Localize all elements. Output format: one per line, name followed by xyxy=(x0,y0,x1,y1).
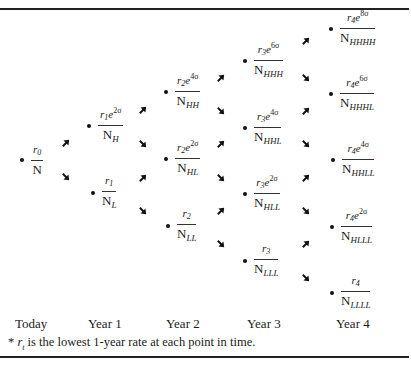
rate-fraction: r0N xyxy=(31,143,43,177)
node-dot xyxy=(243,126,247,130)
rate-fraction: r4e4σNHHLL xyxy=(342,139,374,181)
tree-node-n3LLL: r3NLLL xyxy=(243,242,278,281)
node-dot xyxy=(166,224,170,228)
arrow-down-right-icon xyxy=(301,73,311,83)
footnote-text: is the lowest 1-year rate at each point … xyxy=(24,335,255,349)
fraction-denominator: NLL xyxy=(177,225,196,246)
fraction-numerator: r2e4σ xyxy=(175,71,200,91)
rate-fraction: r3e4σNHHL xyxy=(254,107,281,149)
arrow-up-right-icon xyxy=(301,36,311,46)
bottom-rule xyxy=(0,356,409,358)
arrow-up-right-icon xyxy=(61,138,71,148)
fraction-numerator: r0 xyxy=(31,143,43,160)
node-dot xyxy=(330,225,334,229)
node-dot xyxy=(87,124,91,128)
column-label-2: Year 2 xyxy=(166,316,200,332)
arrow-down-right-icon xyxy=(61,172,71,182)
fraction-denominator: NH xyxy=(103,126,119,147)
rate-fraction: r2e2σNHL xyxy=(175,138,200,180)
rate-fraction: r4e8σNHHHH xyxy=(340,8,375,50)
node-dot xyxy=(329,27,333,31)
rate-fraction: r1NL xyxy=(102,174,116,213)
fraction-denominator: NHLLL xyxy=(341,227,372,248)
rate-fraction: r4NLLLL xyxy=(341,274,370,313)
tree-node-n4HLLL: r4e2σNHLLL xyxy=(330,206,372,248)
rate-fraction: r2NLL xyxy=(177,207,196,246)
fraction-numerator: r4e2σ xyxy=(344,206,369,226)
fraction-numerator: r3e4σ xyxy=(255,107,280,127)
node-dot xyxy=(330,291,334,295)
arrow-down-right-icon xyxy=(138,206,148,216)
fraction-numerator: r2e2σ xyxy=(175,138,200,158)
node-dot xyxy=(331,158,335,162)
fraction-denominator: NHHL xyxy=(254,128,281,149)
arrow-up-right-icon xyxy=(216,139,226,149)
rate-fraction: r3e6σNHHH xyxy=(254,40,283,82)
rate-fraction: r4e2σNHLLL xyxy=(341,206,372,248)
fraction-numerator: r3 xyxy=(260,242,272,259)
fraction-denominator: NL xyxy=(102,192,116,213)
column-label-0: Today xyxy=(15,316,47,332)
column-label-4: Year 4 xyxy=(336,316,370,332)
node-dot xyxy=(20,158,24,162)
rate-fraction: r2e4σNHH xyxy=(175,71,200,113)
fraction-denominator: NHH xyxy=(177,92,199,113)
fraction-denominator: NLLL xyxy=(254,260,278,281)
fraction-denominator: N xyxy=(32,161,41,177)
column-label-3: Year 3 xyxy=(247,316,281,332)
rate-fraction: r1e2σNH xyxy=(98,105,123,147)
fraction-numerator: r4e8σ xyxy=(345,8,370,28)
column-label-1: Year 1 xyxy=(88,316,122,332)
node-dot xyxy=(243,192,247,196)
fraction-numerator: r4 xyxy=(350,274,362,291)
fraction-denominator: NHHLL xyxy=(342,160,374,181)
rate-fraction: r3NLLL xyxy=(254,242,278,281)
node-dot xyxy=(164,90,168,94)
fraction-numerator: r2 xyxy=(181,207,193,224)
tree-node-n4LLLL: r4NLLLL xyxy=(330,274,370,313)
node-dot xyxy=(243,259,247,263)
arrow-up-right-icon xyxy=(301,239,311,249)
fraction-numerator: r1 xyxy=(103,174,115,191)
tree-node-n3HLL: r3e2σNHLL xyxy=(243,173,280,215)
arrow-down-right-icon xyxy=(138,139,148,149)
arrow-up-right-icon xyxy=(216,206,226,216)
arrow-up-right-icon xyxy=(301,173,311,183)
arrow-down-right-icon xyxy=(301,273,311,283)
node-dot xyxy=(329,92,333,96)
fraction-denominator: NHHH xyxy=(254,61,283,82)
tree-node-n2LL: r2NLL xyxy=(166,207,196,246)
tree-node-n1H: r1e2σNH xyxy=(87,105,123,147)
arrow-down-right-icon xyxy=(301,139,311,149)
node-dot xyxy=(91,191,95,195)
tree-node-n4HHHL: r4e6σNHHHL xyxy=(329,73,374,115)
rate-fraction: r4e6σNHHHL xyxy=(340,73,374,115)
fraction-numerator: r4e6σ xyxy=(344,73,369,93)
fraction-numerator: r3e6σ xyxy=(256,40,281,60)
fraction-numerator: r4e4σ xyxy=(345,139,370,159)
tree-node-n2HH: r2e4σNHH xyxy=(164,71,200,113)
fraction-denominator: NHLL xyxy=(254,194,280,215)
arrow-up-right-icon xyxy=(301,106,311,116)
fraction-denominator: NHL xyxy=(177,159,198,180)
arrow-down-right-icon xyxy=(216,173,226,183)
tree-node-n3HHH: r3e6σNHHH xyxy=(243,40,283,82)
arrow-down-right-icon xyxy=(216,106,226,116)
fraction-denominator: NLLLL xyxy=(341,292,370,313)
fraction-denominator: NHHHL xyxy=(340,94,374,115)
fraction-denominator: NHHHH xyxy=(340,29,375,50)
tree-node-n0: r0N xyxy=(20,143,43,177)
footnote: * rt is the lowest 1-year rate at each p… xyxy=(8,335,255,352)
rate-fraction: r3e2σNHLL xyxy=(254,173,280,215)
node-dot xyxy=(164,157,168,161)
arrow-down-right-icon xyxy=(301,206,311,216)
arrow-up-right-icon xyxy=(138,105,148,115)
arrow-up-right-icon xyxy=(138,173,148,183)
tree-node-n1L: r1NL xyxy=(91,174,116,213)
node-dot xyxy=(243,59,247,63)
tree-node-n3HHL: r3e4σNHHL xyxy=(243,107,281,149)
tree-node-n4HHLL: r4e4σNHHLL xyxy=(331,139,374,181)
tree-node-n2HL: r2e2σNHL xyxy=(164,138,200,180)
footnote-marker: * xyxy=(8,335,17,349)
arrow-up-right-icon xyxy=(216,73,226,83)
